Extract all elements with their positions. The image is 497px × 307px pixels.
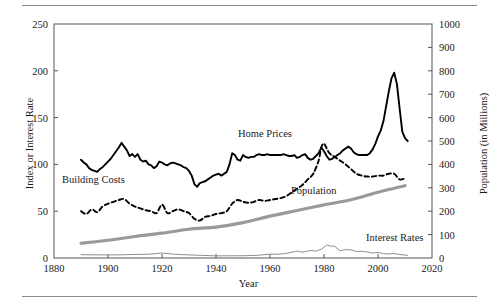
svg-text:2020: 2020 — [422, 263, 443, 274]
svg-text:0: 0 — [439, 253, 444, 264]
svg-text:500: 500 — [439, 136, 455, 147]
figure-container: 1880190019201940196019802000202005010015… — [0, 0, 497, 307]
svg-text:1980: 1980 — [314, 263, 335, 274]
svg-text:100: 100 — [439, 230, 455, 241]
y-axis-right-title: Population (in Millions) — [478, 55, 489, 233]
svg-text:200: 200 — [439, 206, 455, 217]
svg-text:100: 100 — [32, 159, 48, 170]
svg-text:300: 300 — [439, 183, 455, 194]
axis-ticks — [54, 47, 432, 258]
series-label-population: Population — [291, 185, 337, 196]
svg-text:900: 900 — [439, 42, 455, 53]
svg-text:1880: 1880 — [44, 263, 65, 274]
series-line-population — [81, 186, 405, 244]
svg-text:1940: 1940 — [206, 263, 227, 274]
svg-text:1960: 1960 — [260, 263, 281, 274]
data-series-layer — [81, 73, 408, 256]
y-axis-left-title: Index or Interest Rate — [24, 69, 35, 219]
x-axis-title: Year — [0, 278, 497, 289]
series-line-interest-rates — [81, 245, 408, 256]
svg-text:250: 250 — [32, 19, 48, 30]
chart-plot: 1880190019201940196019802000202005010015… — [0, 0, 497, 307]
svg-text:400: 400 — [439, 159, 455, 170]
series-label-building-costs: Building Costs — [62, 174, 125, 185]
svg-text:0: 0 — [43, 253, 48, 264]
series-label-home-prices: Home Prices — [238, 128, 292, 139]
svg-text:800: 800 — [439, 66, 455, 77]
svg-text:2000: 2000 — [368, 263, 389, 274]
svg-text:1900: 1900 — [98, 263, 119, 274]
svg-text:50: 50 — [38, 206, 49, 217]
svg-text:150: 150 — [32, 113, 48, 124]
svg-text:1920: 1920 — [152, 263, 173, 274]
series-label-interest-rates: Interest Rates — [366, 232, 423, 243]
svg-text:700: 700 — [439, 89, 455, 100]
svg-text:200: 200 — [32, 66, 48, 77]
svg-text:600: 600 — [439, 113, 455, 124]
svg-text:1000: 1000 — [439, 19, 460, 30]
